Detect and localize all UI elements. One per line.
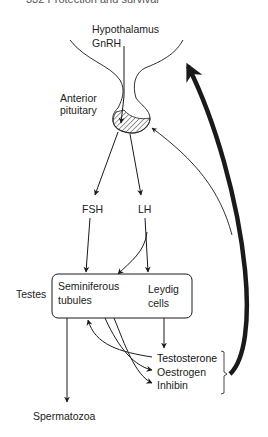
label-inhibin: Inhibin (157, 379, 188, 391)
label-testes: Testes (16, 288, 46, 300)
anterior-pituitary-shape (113, 98, 150, 133)
testosterone-to-tubules-arrow (88, 320, 152, 357)
label-anterior-pituitary-1: Anterior (60, 92, 97, 104)
label-lh: LH (138, 203, 151, 215)
lh-to-tubules-arrow (118, 232, 147, 274)
hormone-bracket (221, 351, 227, 394)
feedback-to-hypothalamus-arrow (188, 66, 247, 374)
fsh-to-tubules-arrow (86, 218, 90, 272)
label-leydig-1: Leydig (148, 283, 179, 295)
label-seminiferous-1: Seminiferous (58, 280, 119, 292)
label-hypothalamus: Hypothalamus (92, 23, 159, 35)
label-testosterone: Testosterone (157, 352, 217, 364)
label-spermatozoa: Spermatozoa (33, 410, 95, 422)
hormone-feedback-diagram (0, 0, 268, 437)
label-anterior-pituitary-2: pituitary (60, 104, 97, 116)
lh-to-leydig-arrow (145, 218, 148, 272)
label-leydig-2: cells (148, 297, 169, 309)
label-seminiferous-2: tubules (58, 294, 92, 306)
pituitary-to-lh-arrow (130, 134, 141, 195)
tubules-to-oestrogen-arrow (105, 318, 152, 370)
label-fsh: FSH (82, 203, 103, 215)
tubules-to-inhibin-arrow (114, 318, 152, 383)
label-gnrh: GnRH (92, 37, 121, 49)
pituitary-to-fsh-arrow (95, 132, 118, 195)
label-oestrogen: Oestrogen (157, 366, 206, 378)
